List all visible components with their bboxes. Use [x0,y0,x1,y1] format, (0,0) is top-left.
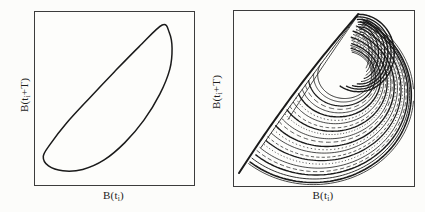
chaotic-attractor-panel [233,10,415,187]
limit-cycle-plot [35,12,194,185]
attractor-arcs [249,19,414,185]
left-y-axis-label: B(ti+T) [18,53,32,137]
limit-cycle-panel [34,11,195,186]
left-y-axis-label-text: B(t [18,97,30,112]
right-x-axis-label-suffix: ) [330,189,334,201]
right-y-axis-label-suffix: +T) [210,75,222,92]
left-y-axis-label-sub: i [23,95,32,97]
left-y-axis-label-suffix: +T) [18,78,30,95]
left-x-axis-label: B(ti) [72,189,156,203]
left-x-axis-label-suffix: ) [120,189,124,201]
right-y-axis-label: B(ti+T) [210,50,224,134]
two-panel-return-map-figure: B(ti+T) B(ti) B(ti+T) B(ti) [0,0,425,212]
chaotic-attractor-plot [234,11,414,186]
right-x-axis-label-text: B(t [313,189,328,201]
left-x-axis-label-text: B(t [103,189,118,201]
right-y-axis-label-text: B(t [210,94,222,109]
limit-cycle-curve [43,24,172,171]
right-y-axis-label-sub: i [215,92,224,94]
right-x-axis-label: B(ti) [281,189,365,203]
